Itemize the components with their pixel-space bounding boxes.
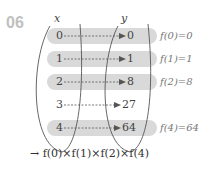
x-value-0: 0 <box>56 29 63 42</box>
y-value-3: 27 <box>122 98 136 111</box>
annotation-2: f(2)=8 <box>160 76 193 87</box>
y-value-2: 8 <box>127 75 134 88</box>
domain-label: x <box>54 12 60 25</box>
x-value-1: 1 <box>56 52 63 65</box>
band-0 <box>47 28 157 44</box>
y-value-1: 1 <box>127 52 134 65</box>
x-value-2: 2 <box>56 75 63 88</box>
y-value-4: 64 <box>122 121 136 134</box>
result-expression: → f(0)×f(1)×f(2)×f(4) <box>30 147 149 160</box>
annotation-1: f(1)=1 <box>160 53 193 64</box>
band-2 <box>47 74 157 90</box>
codomain-label: y <box>121 12 127 25</box>
annotation-4: f(4)=64 <box>160 122 199 133</box>
band-4 <box>47 120 157 136</box>
annotation-0: f(0)=0 <box>160 30 193 41</box>
y-value-0: 0 <box>127 29 134 42</box>
band-1 <box>47 51 157 67</box>
x-value-4: 4 <box>56 121 63 134</box>
x-value-3: 3 <box>56 98 63 111</box>
